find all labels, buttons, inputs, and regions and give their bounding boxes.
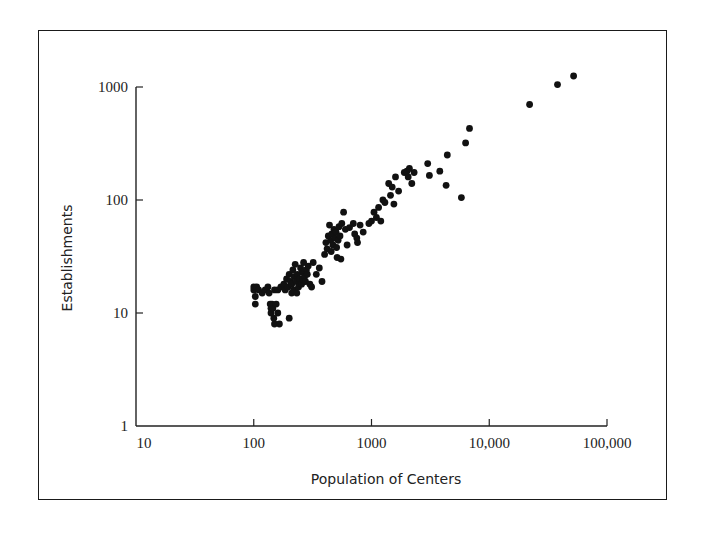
data-point xyxy=(252,301,259,308)
y-tick-label: 10 xyxy=(113,305,128,321)
data-point xyxy=(570,73,577,80)
data-point xyxy=(252,293,259,300)
data-point xyxy=(424,160,431,167)
data-point xyxy=(276,321,283,328)
y-tick-label: 100 xyxy=(106,192,129,208)
data-point xyxy=(426,172,433,179)
data-point xyxy=(313,271,320,278)
data-point xyxy=(338,220,345,227)
data-point xyxy=(444,152,451,159)
data-point xyxy=(466,125,473,132)
data-point xyxy=(408,180,415,187)
data-point xyxy=(350,220,357,227)
x-axis-title: Population of Centers xyxy=(311,471,461,487)
data-point xyxy=(436,168,443,175)
data-point xyxy=(344,242,351,249)
x-tick-label: 100 xyxy=(243,435,266,451)
data-points xyxy=(250,73,577,328)
data-point xyxy=(354,239,361,246)
data-point xyxy=(395,188,402,195)
data-point xyxy=(308,284,315,291)
data-point xyxy=(526,101,533,108)
y-tick-label: 1 xyxy=(121,418,129,434)
data-point xyxy=(328,248,335,255)
y-axis-title: Establishments xyxy=(59,205,75,312)
x-tick-label: 1000 xyxy=(357,435,387,451)
data-point xyxy=(304,271,311,278)
data-point xyxy=(316,265,323,272)
x-tick-label: 10 xyxy=(137,435,152,451)
y-tick-label: 1000 xyxy=(98,79,128,95)
data-point xyxy=(405,174,412,181)
data-point xyxy=(293,290,300,297)
data-point xyxy=(338,256,345,263)
data-point xyxy=(286,315,293,322)
data-point xyxy=(387,192,394,199)
data-point xyxy=(458,194,465,201)
data-point xyxy=(554,81,561,88)
data-point xyxy=(360,229,367,236)
data-point xyxy=(357,222,364,229)
data-point xyxy=(411,169,418,176)
data-point xyxy=(443,182,450,189)
scatter-plot: 10100100010,000100,000 1101001000 Popula… xyxy=(0,0,701,543)
x-tick-label: 10,000 xyxy=(469,435,510,451)
data-point xyxy=(392,174,399,181)
data-point xyxy=(462,140,469,147)
x-ticks: 10100100010,000100,000 xyxy=(137,419,632,451)
data-point xyxy=(377,218,384,225)
data-point xyxy=(273,301,280,308)
data-point xyxy=(382,199,389,206)
data-point xyxy=(333,244,340,251)
data-point xyxy=(265,284,272,291)
data-point xyxy=(337,233,344,240)
axes xyxy=(136,87,607,426)
data-point xyxy=(391,201,398,208)
data-point xyxy=(319,278,326,285)
data-point xyxy=(274,310,281,317)
data-point xyxy=(310,259,317,266)
data-point xyxy=(389,184,396,191)
data-point xyxy=(340,209,347,216)
data-point xyxy=(375,204,382,211)
x-tick-label: 100,000 xyxy=(583,435,632,451)
